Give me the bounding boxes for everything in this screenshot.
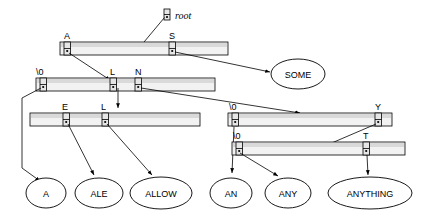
cell-S-label: S <box>169 31 175 41</box>
terminal-a-label: A <box>43 189 49 199</box>
cell-T-row5-pointer-dot <box>365 150 367 152</box>
terminal-any[interactable]: ANY <box>265 178 311 208</box>
row-5-array[interactable]: \0 T <box>232 131 405 155</box>
cell-L-row3-label: L <box>101 102 106 112</box>
terminal-anything-label: ANYTHING <box>347 189 394 199</box>
edge-nul2-to-A <box>22 88 41 181</box>
terminal-ale-label: ALE <box>90 189 107 199</box>
cell-nul-row4-pointer-dot <box>234 121 236 123</box>
row-2-bar-shade <box>37 79 214 83</box>
root-node[interactable]: root <box>164 9 192 21</box>
cell-E-row3-pointer-dot <box>65 121 67 123</box>
row-2-array[interactable]: \0 L N <box>36 67 215 91</box>
root-label: root <box>175 10 192 21</box>
cell-nul-row5-pointer-dot <box>238 150 240 152</box>
cell-L-row2-label: L <box>110 67 115 77</box>
terminal-allow-label: ALLOW <box>145 189 177 199</box>
cell-A-pointer-dot <box>66 50 68 52</box>
cell-N-row2-label: N <box>135 67 142 77</box>
terminal-a[interactable]: A <box>26 178 66 208</box>
cell-L-row2[interactable]: L <box>110 67 117 91</box>
cell-T-row5-label: T <box>363 131 369 141</box>
edge-E3-to-ALE <box>68 124 94 175</box>
terminal-some[interactable]: SOME <box>271 59 325 89</box>
terminal-an[interactable]: AN <box>210 178 252 208</box>
row-4-bar-shade <box>229 114 391 118</box>
edge-N2-to-row4 <box>141 88 300 113</box>
edge-T5-to-ANYTHING <box>367 155 368 175</box>
terminal-ale[interactable]: ALE <box>75 178 123 208</box>
cell-Y-row4-label: Y <box>375 102 381 112</box>
terminal-an-label: AN <box>225 189 238 199</box>
diagram-canvas: root A S SOME <box>0 0 426 220</box>
cell-N-row2-pointer-dot <box>137 86 139 88</box>
edge-nul5-to-ANY <box>240 153 278 176</box>
cell-N-row2[interactable]: N <box>135 67 142 91</box>
cell-S-pointer-dot <box>171 50 173 52</box>
terminal-some-label: SOME <box>285 70 312 80</box>
cell-A-label: A <box>64 31 70 41</box>
cell-L-row2-pointer-dot <box>112 86 114 88</box>
terminal-allow[interactable]: ALLOW <box>130 177 192 209</box>
cell-E-row3[interactable]: E <box>62 102 70 126</box>
cell-nul-row4-label: \0 <box>229 102 237 112</box>
terminal-anything[interactable]: ANYTHING <box>328 177 412 209</box>
cell-L-row3[interactable]: L <box>101 102 109 126</box>
row-3-array[interactable]: E L <box>30 102 200 126</box>
root-pointer-dot <box>166 16 168 18</box>
edge-A-to-row2 <box>69 53 110 80</box>
row-1-bar-shade <box>61 43 227 47</box>
cell-L-row3-pointer-dot <box>104 121 106 123</box>
terminal-any-label: ANY <box>279 189 298 199</box>
cell-E-row3-label: E <box>62 102 68 112</box>
cell-T-row5[interactable]: T <box>363 131 370 155</box>
row-1-array[interactable]: A S <box>60 31 228 55</box>
cell-nul-row2-label: \0 <box>36 67 44 77</box>
row-5-bar-shade <box>233 143 404 147</box>
row-3-bar-shade <box>31 114 199 118</box>
edge-L3-to-ALLOW <box>107 124 152 175</box>
cell-Y-row4-pointer-dot <box>377 121 379 123</box>
cell-nul-row2-pointer-dot <box>42 86 44 88</box>
cell-Y-row4[interactable]: Y <box>375 102 382 126</box>
cell-A-row1[interactable]: A <box>64 31 71 55</box>
cell-nul-row5-label: \0 <box>233 131 241 141</box>
cell-S-row1[interactable]: S <box>169 31 176 55</box>
